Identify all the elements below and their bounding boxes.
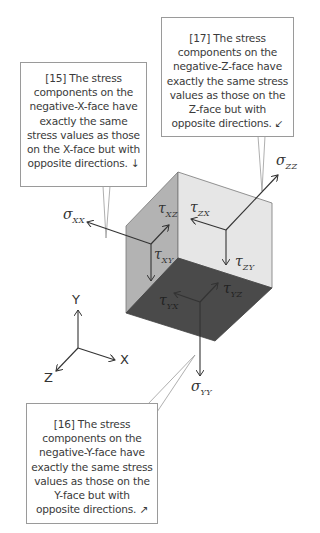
callout-x-face: [15] The stress components on the negati… xyxy=(20,62,147,187)
label-sigma-zz: σZZ xyxy=(276,152,298,171)
arrow-up-right-icon: ↗ xyxy=(139,503,148,515)
callout-y-face: [16] The stress components on the negati… xyxy=(26,403,158,524)
label-sigma-yy: σYY xyxy=(191,378,212,397)
arrow-down-icon: ↓ xyxy=(131,157,140,169)
z-axis xyxy=(56,348,78,371)
axis-label-x: X xyxy=(120,352,129,367)
label-tau-yz: τYZ xyxy=(223,280,243,299)
callout-text: The stress components on the negative-Z-… xyxy=(167,32,288,129)
label-sigma-xx: σXX xyxy=(63,206,85,225)
callout-number: [17] xyxy=(189,32,210,44)
axis-label-z: Z xyxy=(44,370,53,385)
label-tau-yx: τYX xyxy=(159,292,179,311)
label-tau-xy: τXY xyxy=(154,246,174,265)
callout-number: [15] xyxy=(45,72,66,84)
label-tau-zy: τZY xyxy=(235,253,255,272)
label-tau-zx: τZX xyxy=(190,199,210,218)
callout-text: The stress components on the negative-Y-… xyxy=(31,418,152,515)
callout-z-face: [17] The stress components on the negati… xyxy=(161,17,294,137)
axis-label-y: Y xyxy=(72,292,80,307)
arrow-down-left-icon: ↙ xyxy=(275,117,284,129)
x-axis xyxy=(78,348,115,360)
callout-text: The stress components on the negative-X-… xyxy=(27,72,140,169)
callout-number: [16] xyxy=(54,418,75,430)
label-tau-xz: τXZ xyxy=(158,200,178,219)
